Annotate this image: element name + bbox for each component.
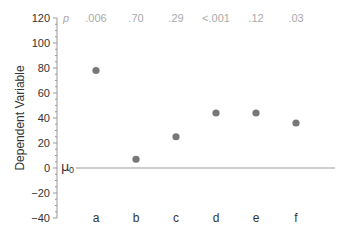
p-value-b: .70 — [128, 12, 143, 24]
data-point-d — [212, 109, 219, 116]
data-point-a — [92, 67, 99, 74]
p-value-row: p.006.70.29<.001.12.03 — [62, 12, 304, 24]
data-point-e — [252, 109, 259, 116]
y-tick-label: 0 — [44, 162, 50, 174]
y-tick-label: 20 — [38, 137, 50, 149]
x-category-f: f — [294, 211, 298, 225]
p-value-f: .03 — [288, 12, 303, 24]
y-axis: 120100806040200−20−40 — [31, 12, 57, 224]
scatter-chart: Dependent Variable 120100806040200−20−40… — [0, 0, 350, 235]
p-value-c: .29 — [168, 12, 183, 24]
data-points — [92, 67, 299, 163]
data-point-b — [132, 156, 139, 163]
data-point-f — [292, 119, 299, 126]
p-value-e: .12 — [248, 12, 263, 24]
x-category-e: e — [253, 211, 260, 225]
y-tick-label: 60 — [38, 87, 50, 99]
y-axis-label-group: Dependent Variable — [13, 65, 27, 171]
x-category-d: d — [213, 211, 220, 225]
p-value-d: <.001 — [202, 12, 230, 24]
y-tick-label: 100 — [32, 37, 50, 49]
mu0-subscript: 0 — [69, 165, 74, 175]
y-tick-label: −20 — [31, 187, 50, 199]
y-axis-label: Dependent Variable — [13, 65, 27, 171]
p-label: p — [62, 12, 69, 24]
x-axis-categories: abcdef — [93, 211, 299, 225]
y-tick-label: 40 — [38, 112, 50, 124]
x-category-c: c — [173, 211, 179, 225]
y-tick-label: 120 — [32, 12, 50, 24]
reference-line-mu0: μ0 — [61, 159, 335, 175]
y-tick-label: 80 — [38, 62, 50, 74]
y-tick-label: −40 — [31, 212, 50, 224]
data-point-c — [172, 133, 179, 140]
p-value-a: .006 — [85, 12, 106, 24]
x-category-a: a — [93, 211, 100, 225]
x-category-b: b — [133, 211, 140, 225]
